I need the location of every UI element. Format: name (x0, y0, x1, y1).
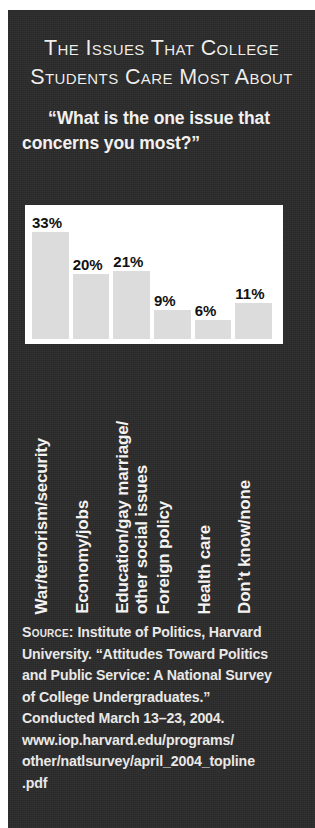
source-note: Source: Institute of Politics, Harvard U… (22, 622, 306, 794)
category-label-line: War/terrorism/security (32, 438, 51, 614)
category-label-line: Don’t know/none (235, 480, 254, 614)
bar (113, 271, 150, 339)
bar-value-label: 6% (195, 303, 232, 319)
category-label-line: Education/gay marriage/ (113, 421, 132, 614)
bar (32, 232, 69, 339)
source-line-2: University. “Attitudes Toward Politics (22, 644, 306, 666)
bar (73, 274, 110, 339)
bar-slot: 21% (113, 209, 150, 339)
bar-slot: 33% (32, 209, 69, 339)
chart-plot-area: 33%20%21%9%6%11% (25, 205, 283, 344)
bar-slot: 9% (154, 209, 191, 339)
title-line-1: The Issues That College (8, 34, 315, 63)
source-line-3: and Public Service: A National Survey (22, 665, 306, 687)
page-title: The Issues That College Students Care Mo… (8, 34, 315, 92)
infographic-panel: The Issues That College Students Care Mo… (8, 10, 315, 828)
source-url-line-2: other/natlsurvey/april_2004_topline (22, 751, 306, 773)
category-label-line: Economy/jobs (73, 500, 92, 614)
bar-series-container: 33%20%21%9%6%11% (32, 209, 276, 339)
bar (154, 310, 191, 339)
category-axis-labels: War/terrorism/securityEconomy/jobsEducat… (25, 346, 295, 614)
source-line-5: Conducted March 13–23, 2004. (22, 708, 306, 730)
source-url-line-3: .pdf (22, 773, 306, 795)
source-url-line-1: www.iop.harvard.edu/programs/ (22, 730, 306, 752)
title-line-2: Students Care Most About (8, 63, 315, 92)
bar-value-label: 9% (154, 293, 191, 309)
bar-slot: 11% (235, 209, 272, 339)
bar-value-label: 11% (235, 286, 272, 302)
bar-slot: 20% (73, 209, 110, 339)
category-label-line: other social issues (132, 465, 151, 614)
survey-question: “What is the one issue that concerns you… (22, 106, 304, 156)
bar-value-label: 20% (73, 257, 110, 273)
bar-value-label: 33% (32, 215, 69, 231)
source-line-1-text: Institute of Politics, Harvard (74, 624, 262, 640)
bar (235, 303, 272, 339)
category-label-line: Health care (195, 525, 214, 614)
bar-slot: 6% (195, 209, 232, 339)
source-label: Source: (22, 624, 74, 640)
bar (195, 320, 232, 340)
source-line-1: Source: Institute of Politics, Harvard (22, 622, 306, 644)
source-line-4: of College Undergraduates.” (22, 687, 306, 709)
bar-value-label: 21% (113, 254, 150, 270)
category-label-line: Foreign policy (154, 501, 173, 614)
